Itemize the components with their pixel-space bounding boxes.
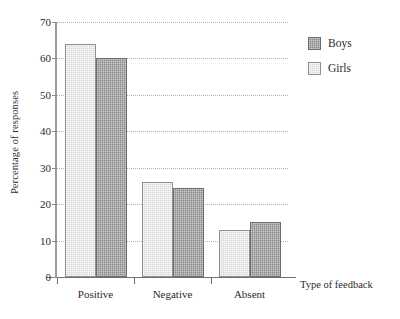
legend-swatch-girls-icon bbox=[308, 62, 321, 75]
y-tick-label: 40 bbox=[40, 125, 51, 137]
y-axis-title-text: Percentage of responses bbox=[10, 91, 21, 194]
legend-swatch-boys-icon bbox=[308, 37, 321, 50]
bar-group-absent: Absent bbox=[211, 22, 288, 277]
x-axis-title: Type of feedback bbox=[300, 279, 373, 290]
x-tick-mark-absent bbox=[211, 277, 212, 284]
y-tick-label: 70 bbox=[40, 16, 51, 28]
bar-group-negative: Negative bbox=[134, 22, 211, 277]
bar-positive-boys bbox=[96, 58, 127, 277]
bar-negative-boys bbox=[173, 188, 204, 277]
bar-group-positive: Positive bbox=[57, 22, 134, 277]
plot-area: 010203040506070 PositiveNegativeAbsent bbox=[57, 22, 288, 277]
x-tick-mark-positive bbox=[57, 277, 58, 284]
y-tick-label: 50 bbox=[40, 89, 51, 101]
x-tick-mark-negative bbox=[134, 277, 135, 284]
bar-positive-girls bbox=[65, 44, 96, 277]
bar-absent-girls bbox=[219, 230, 250, 277]
y-tick-label: 10 bbox=[40, 234, 51, 246]
chart-screenshot: Percentage of responses 010203040506070 … bbox=[0, 0, 400, 319]
legend-label-girls: Girls bbox=[328, 62, 351, 74]
bar-absent-boys bbox=[250, 222, 281, 277]
y-tick-label: 0 bbox=[46, 271, 52, 283]
legend-item-boys: Boys bbox=[308, 36, 352, 50]
legend-item-girls: Girls bbox=[308, 61, 352, 75]
y-tick-label: 20 bbox=[40, 198, 51, 210]
bar-negative-girls bbox=[142, 182, 173, 277]
x-tick-label-positive: Positive bbox=[78, 288, 113, 300]
chart-legend: Boys Girls bbox=[308, 36, 352, 86]
legend-label-boys: Boys bbox=[328, 37, 352, 49]
y-axis-title: Percentage of responses bbox=[2, 0, 28, 285]
y-tick-label: 60 bbox=[40, 52, 51, 64]
y-tick-label: 30 bbox=[40, 161, 51, 173]
x-tick-label-negative: Negative bbox=[153, 288, 193, 300]
x-tick-label-absent: Absent bbox=[234, 288, 265, 300]
